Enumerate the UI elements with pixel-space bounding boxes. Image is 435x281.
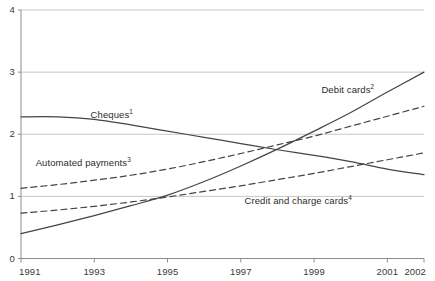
x-tick-label: 2002 xyxy=(392,266,426,277)
x-tick-label: 1995 xyxy=(151,266,185,277)
series-label-cheques: Cheques1 xyxy=(91,109,133,120)
y-tick-label: 3 xyxy=(1,66,15,77)
series-label-footnote-marker: 1 xyxy=(129,108,133,115)
line-chart: 01234 1991199319951997199920012002 Chequ… xyxy=(0,0,435,281)
series-label-footnote-marker: 4 xyxy=(348,194,352,201)
chart-plot-area xyxy=(0,0,435,281)
x-tick-label: 1999 xyxy=(297,266,331,277)
series-line-3 xyxy=(21,72,424,234)
series-label-credit-and-charge-cards: Credit and charge cards4 xyxy=(244,195,351,206)
series-label-footnote-marker: 3 xyxy=(127,156,131,163)
series-label-text: Automated payments xyxy=(36,157,128,168)
series-label-automated-payments: Automated payments3 xyxy=(36,157,131,168)
x-tick-label: 1991 xyxy=(19,266,53,277)
series-label-text: Credit and charge cards xyxy=(244,195,348,206)
series-label-debit-cards: Debit cards2 xyxy=(321,84,374,95)
x-tick-label: 1993 xyxy=(77,266,111,277)
y-tick-label: 1 xyxy=(1,190,15,201)
y-tick-label: 2 xyxy=(1,128,15,139)
y-tick-label: 0 xyxy=(1,253,15,264)
series-lines xyxy=(21,72,424,234)
series-label-footnote-marker: 2 xyxy=(371,82,375,89)
series-label-text: Debit cards xyxy=(321,84,370,95)
x-tick-label: 1997 xyxy=(224,266,258,277)
series-label-text: Cheques xyxy=(91,109,130,120)
x-axis-ticks xyxy=(21,259,424,263)
y-tick-label: 4 xyxy=(1,4,15,15)
